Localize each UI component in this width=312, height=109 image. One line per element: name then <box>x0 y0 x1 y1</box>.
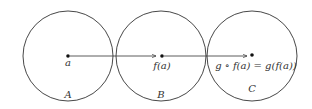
set-b-label: B <box>156 89 164 100</box>
point-dot-1 <box>160 54 164 58</box>
point-label-0: a <box>65 57 71 68</box>
point-label-2: g ∘ f(a) = g(f(a)) <box>215 60 297 71</box>
set-a-label: A <box>63 89 71 100</box>
point-dot-2 <box>250 53 254 57</box>
composition-diagram: ABCaf(a)g ∘ f(a) = g(f(a)) <box>0 0 312 109</box>
set-c-label: C <box>248 83 256 94</box>
point-label-1: f(a) <box>152 60 171 71</box>
